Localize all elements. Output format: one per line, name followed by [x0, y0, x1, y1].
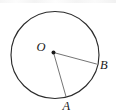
center-point-dot: [52, 51, 56, 55]
circle-outline: [11, 12, 99, 99]
geometry-canvas: O B A: [0, 0, 116, 112]
radius-line-ob: [54, 53, 97, 65]
circle-geometry-diagram: O B A: [0, 0, 116, 112]
label-center-o: O: [37, 40, 46, 54]
radius-line-oa: [54, 53, 67, 97]
label-point-b: B: [100, 58, 108, 72]
label-point-a: A: [62, 99, 71, 112]
